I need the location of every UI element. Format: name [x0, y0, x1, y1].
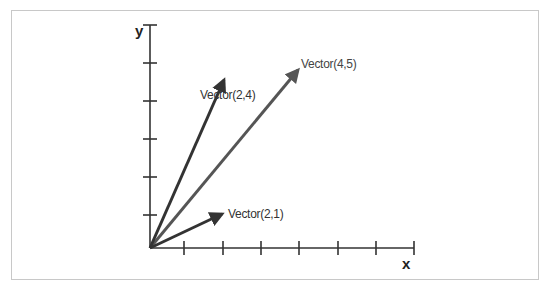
vector-2-1-arrow — [150, 214, 222, 248]
y-axis-label: y — [135, 22, 143, 39]
vector-plot — [0, 0, 549, 291]
vector-4-5-label: Vector(4,5) — [301, 57, 356, 71]
x-axis-label: x — [402, 255, 410, 272]
x-axis — [150, 241, 414, 255]
vector-2-1-label: Vector(2,1) — [228, 207, 283, 221]
y-axis — [143, 25, 157, 248]
vector-2-4-label: Vector(2,4) — [200, 88, 255, 102]
vector-2-4-arrow — [150, 80, 224, 248]
